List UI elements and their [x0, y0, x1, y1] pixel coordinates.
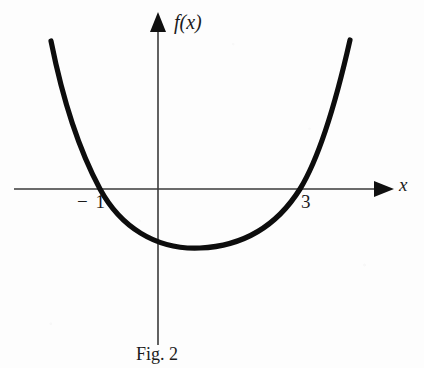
figure-caption: Fig. 2 [0, 345, 369, 363]
function-curve [51, 40, 350, 248]
figure-container: f(x) x − 1 3 Fig. 2 [0, 0, 424, 368]
x-tick-label-negative-one: − 1 [77, 192, 106, 211]
y-axis-arrowhead-icon [150, 12, 166, 32]
x-tick-label-three: 3 [301, 192, 311, 211]
x-axis-label: x [399, 175, 407, 194]
y-axis-label: f(x) [174, 12, 202, 32]
plot-canvas [0, 0, 424, 368]
x-axis-arrowhead-icon [374, 181, 394, 197]
